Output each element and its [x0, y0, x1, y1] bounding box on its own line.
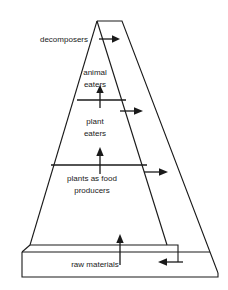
label-animal-eaters-line1: animal [83, 68, 107, 77]
label-plant-eaters-line2: eaters [84, 129, 106, 138]
ecological-pyramid-diagram: decomposers animal eaters plant eaters p… [0, 0, 228, 290]
pyramid-right-edge [97, 21, 167, 245]
arrow-into-decomposers-animal [120, 107, 143, 115]
label-animal-eaters-line2: eaters [84, 80, 106, 89]
arrow-up-producers-to-plant [96, 147, 103, 174]
pyramid-svg-canvas: decomposers animal eaters plant eaters p… [0, 0, 228, 290]
base-bar-left-connector [22, 245, 30, 252]
label-plant-eaters-line1: plant [86, 117, 104, 126]
outer-triangle-right-edge [97, 21, 218, 273]
arrow-return-to-raw-materials [158, 258, 183, 266]
label-raw-materials: raw materials [71, 260, 119, 269]
arrow-into-decomposers-producers [144, 168, 168, 176]
label-producers-line2: producers [74, 186, 110, 195]
label-producers-line1: plants as food [67, 174, 117, 183]
label-decomposers: decomposers [40, 35, 88, 44]
decomposer-channel-return-path [167, 245, 178, 262]
